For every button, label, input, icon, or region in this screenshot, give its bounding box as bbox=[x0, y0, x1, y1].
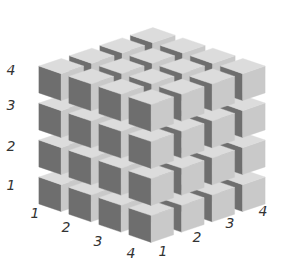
vertical-label-4: 4 bbox=[7, 63, 16, 77]
right-axis-label-3: 3 bbox=[226, 216, 235, 230]
cube-lattice-diagram bbox=[0, 0, 281, 264]
left-axis-label-1: 1 bbox=[31, 206, 40, 220]
cube bbox=[129, 163, 174, 205]
cube bbox=[129, 126, 174, 168]
left-axis-label-2: 2 bbox=[62, 220, 71, 234]
vertical-label-2: 2 bbox=[7, 139, 16, 153]
cube-group bbox=[39, 28, 265, 243]
right-axis-label-1: 1 bbox=[159, 244, 168, 258]
cube bbox=[129, 200, 174, 242]
left-axis-label-3: 3 bbox=[94, 234, 103, 248]
vertical-label-3: 3 bbox=[7, 98, 16, 112]
right-axis-label-2: 2 bbox=[193, 230, 202, 244]
right-axis-label-4: 4 bbox=[259, 204, 268, 218]
left-axis-label-4: 4 bbox=[127, 246, 136, 260]
cube bbox=[129, 89, 174, 131]
vertical-label-1: 1 bbox=[7, 178, 16, 192]
